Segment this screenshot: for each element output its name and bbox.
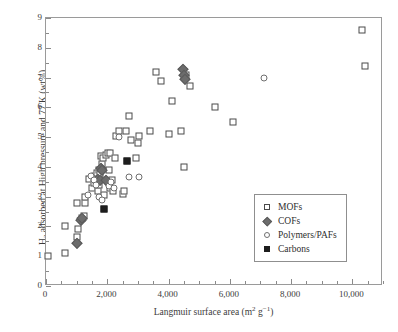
data-point-mofs — [169, 98, 176, 105]
data-point-carbons — [124, 157, 131, 164]
data-point-mofs — [133, 154, 140, 161]
data-point-mofs — [111, 154, 118, 161]
y-axis-tick-label: 2 — [32, 220, 42, 230]
open-circle-icon — [261, 232, 273, 238]
legend-item-label: Carbons — [278, 244, 310, 254]
data-point-mofs — [134, 140, 141, 147]
data-point-mofs — [81, 199, 88, 206]
data-point-polymers-pafs — [84, 192, 91, 199]
y-axis-tick-label: 1 — [32, 250, 42, 260]
scatter-chart-figure: H2 adsorbed at High pressure and 77 K (w… — [0, 0, 398, 332]
data-point-mofs — [157, 77, 164, 84]
legend-item-mofs[interactable]: MOFs — [261, 200, 337, 214]
legend-item-label: Polymers/PAFs — [278, 230, 337, 240]
x-axis-tick-label: 8,000 — [280, 289, 300, 299]
x-axis-tick-label: 6,000 — [219, 289, 239, 299]
data-point-mofs — [186, 83, 193, 90]
filled-diamond-icon — [261, 218, 273, 225]
data-point-mofs — [125, 113, 132, 120]
y-axis-tick-label: 0 — [32, 280, 42, 290]
data-point-polymers-pafs — [136, 174, 143, 181]
legend-item-label: MOFs — [278, 202, 302, 212]
data-point-mofs — [166, 131, 173, 138]
y-axis-tick-label: 7 — [32, 72, 42, 82]
x-axis-tick-label: 4,000 — [157, 289, 177, 299]
data-point-polymers-pafs — [125, 174, 132, 181]
filled-square-icon — [261, 246, 273, 252]
legend-item-cofs[interactable]: COFs — [261, 214, 337, 228]
data-point-polymers-pafs — [260, 74, 267, 81]
y-axis-tick-label: 4 — [32, 161, 42, 171]
y-axis-tick-label: 3 — [32, 191, 42, 201]
data-point-mofs — [61, 250, 68, 257]
legend-item-polymers-pafs[interactable]: Polymers/PAFs — [261, 228, 337, 242]
data-point-carbons — [100, 205, 107, 212]
legend-item-label: COFs — [278, 216, 300, 226]
x-axis-title-close: ) — [270, 307, 273, 317]
y-axis-tick-label: 5 — [32, 131, 42, 141]
y-axis-tick-label: 6 — [32, 101, 42, 111]
y-axis-tick — [46, 286, 51, 287]
x-axis-title-mid: g — [256, 307, 263, 317]
data-point-mofs — [180, 163, 187, 170]
data-point-mofs — [122, 128, 129, 135]
chart-legend: MOFs COFs Polymers/PAFs Carbons — [254, 194, 347, 262]
x-axis-tick-label: 10,000 — [339, 289, 364, 299]
data-point-polymers-pafs — [111, 184, 118, 191]
data-point-mofs — [136, 132, 143, 139]
open-square-icon — [261, 204, 273, 210]
data-point-mofs — [75, 226, 82, 233]
y-axis-tick-label: 8 — [32, 42, 42, 52]
data-point-polymers-pafs — [93, 181, 100, 188]
data-point-mofs — [127, 137, 134, 144]
data-point-mofs — [45, 253, 52, 260]
data-point-mofs — [152, 68, 159, 75]
data-point-mofs — [358, 26, 365, 33]
data-point-mofs — [361, 62, 368, 69]
x-axis-title-text: Langmuir surface area (m — [154, 307, 252, 317]
data-point-mofs — [61, 223, 68, 230]
data-point-mofs — [120, 187, 127, 194]
x-axis-tick-label: 0 — [43, 289, 48, 299]
y-axis-tick-label: 9 — [32, 12, 42, 22]
x-axis-tick-label: 2,000 — [96, 289, 116, 299]
x-axis-tick — [383, 281, 384, 284]
data-point-mofs — [73, 199, 80, 206]
data-point-mofs — [177, 128, 184, 135]
data-point-mofs — [211, 104, 218, 111]
legend-item-carbons[interactable]: Carbons — [261, 242, 337, 256]
x-axis-title: Langmuir surface area (m2 g−1) — [45, 305, 382, 317]
data-point-polymers-pafs — [98, 196, 105, 203]
data-point-polymers-pafs — [115, 134, 122, 141]
data-point-mofs — [147, 128, 154, 135]
data-point-mofs — [229, 119, 236, 126]
